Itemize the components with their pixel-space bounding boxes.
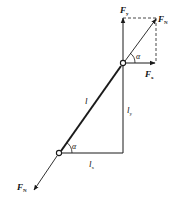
rod-l <box>61 66 121 151</box>
label-alpha-bottom: α <box>72 142 77 151</box>
label-fn-bottom: FN <box>16 182 27 193</box>
arrow-fn-bottom <box>34 156 57 190</box>
pivot-top <box>120 60 125 65</box>
force-diagram: Fy FN Fx FN α α l ly lx <box>0 0 180 199</box>
label-length: l <box>85 96 88 106</box>
arrow-fn-top <box>125 19 156 61</box>
label-fx: Fx <box>144 69 154 80</box>
label-lx: lx <box>89 159 95 170</box>
label-alpha-top: α <box>136 52 141 61</box>
label-ly: ly <box>127 105 133 116</box>
angle-arc-top <box>130 53 135 63</box>
pivot-bottom <box>56 150 61 155</box>
label-fy: Fy <box>119 5 129 16</box>
label-fn-top: FN <box>157 14 168 25</box>
